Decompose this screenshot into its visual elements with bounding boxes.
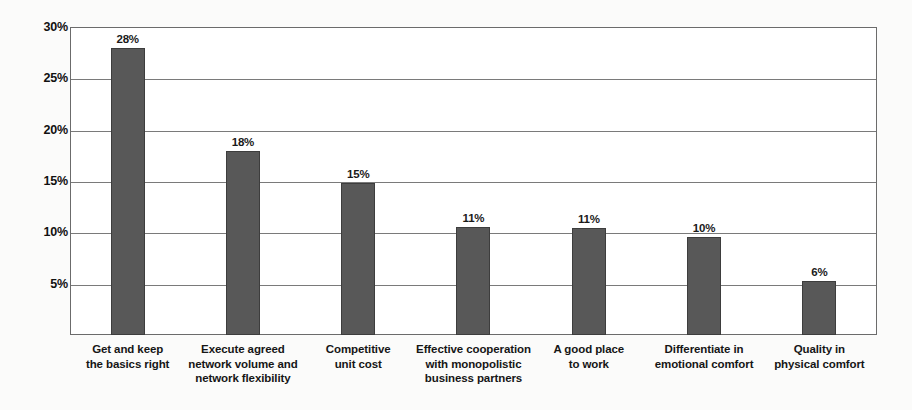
- bar-value-label: 28%: [116, 33, 138, 45]
- bar: [111, 48, 145, 335]
- y-tick-label: 20%: [6, 123, 68, 137]
- bar-group: 15%: [301, 27, 416, 335]
- bar: [226, 151, 260, 335]
- bars-layer: 28%18%15%11%11%10%6%: [70, 27, 877, 335]
- bar: [341, 183, 375, 335]
- bar: [802, 281, 836, 335]
- category-label: Quality inphysical comfort: [741, 342, 898, 371]
- bar-group: 18%: [185, 27, 300, 335]
- y-tick-label: 5%: [6, 277, 68, 291]
- category-label-line: Quality in: [741, 342, 898, 357]
- bar-group: 28%: [70, 27, 185, 335]
- y-tick-label: 15%: [6, 174, 68, 188]
- bar-group: 10%: [646, 27, 761, 335]
- bar: [687, 237, 721, 335]
- bar-group: 6%: [762, 27, 877, 335]
- y-tick-label: 25%: [6, 71, 68, 85]
- bar-group: 11%: [531, 27, 646, 335]
- bar-value-label: 11%: [578, 213, 600, 225]
- bar-value-label: 18%: [232, 136, 254, 148]
- bar-group: 11%: [416, 27, 531, 335]
- bar: [456, 227, 490, 335]
- y-tick-label: 30%: [6, 20, 68, 34]
- y-tick-label: 10%: [6, 225, 68, 239]
- category-label-line: network flexibility: [165, 371, 322, 386]
- bar-value-label: 10%: [693, 222, 715, 234]
- bar: [572, 228, 606, 335]
- category-labels: Get and keepthe basics rightExecute agre…: [70, 342, 877, 404]
- bar-value-label: 6%: [811, 266, 827, 278]
- category-label-line: business partners: [395, 371, 552, 386]
- bar-value-label: 15%: [347, 168, 369, 180]
- bar-value-label: 11%: [463, 212, 485, 224]
- bar-chart: 5%10%15%20%25%30% 28%18%15%11%11%10%6% G…: [0, 0, 912, 410]
- category-label-line: physical comfort: [741, 357, 898, 372]
